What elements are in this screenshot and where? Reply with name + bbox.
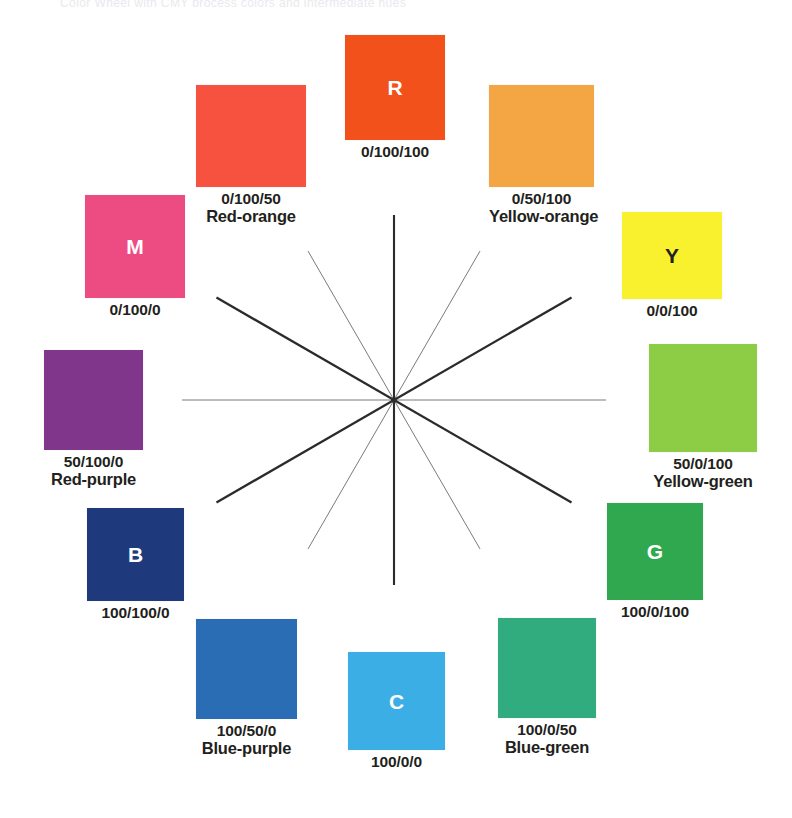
color-name-blue-green: Blue-green [498, 738, 596, 756]
swatch-group-yellow: Y 0/0/100 [622, 212, 722, 319]
color-chip-green[interactable]: G [607, 503, 703, 600]
color-chip-red-purple[interactable] [44, 350, 143, 450]
swatch-group-blue-purple: 100/50/0 Blue-purple [196, 619, 297, 758]
chip-letter-magenta: M [126, 236, 144, 257]
chip-letter-red: R [387, 77, 402, 98]
swatch-group-green: G 100/0/100 [607, 503, 703, 620]
color-name-blue-purple: Blue-purple [196, 739, 297, 757]
swatch-group-yellow-green: 50/0/100 Yellow-green [649, 344, 757, 491]
color-code-red-orange: 0/100/50 [196, 190, 306, 207]
color-name-red-orange: Red-orange [196, 207, 306, 225]
swatch-group-yellow-orange: 0/50/100 Yellow-orange [489, 85, 594, 226]
chip-letter-green: G [647, 541, 663, 562]
spoke-line-4 [308, 251, 480, 549]
color-code-yellow-green: 50/0/100 [649, 455, 757, 472]
swatch-group-blue-green: 100/0/50 Blue-green [498, 618, 596, 757]
swatch-group-red: R 0/100/100 [345, 35, 445, 160]
spoke-line-3 [216, 298, 571, 503]
color-wheel-figure: Color Wheel with CMY process colors and … [0, 0, 792, 818]
color-chip-blue-purple[interactable] [196, 619, 297, 719]
color-code-blue-purple: 100/50/0 [196, 722, 297, 739]
color-code-yellow: 0/0/100 [622, 302, 722, 319]
color-chip-red[interactable]: R [345, 35, 445, 140]
color-chip-magenta[interactable]: M [85, 195, 185, 298]
swatch-group-magenta: M 0/100/0 [85, 195, 185, 318]
color-code-blue: 100/100/0 [87, 604, 184, 621]
color-code-blue-green: 100/0/50 [498, 721, 596, 738]
swatch-group-cyan: C 100/0/0 [348, 652, 445, 770]
swatch-group-red-orange: 0/100/50 Red-orange [196, 85, 306, 226]
color-code-red-purple: 50/100/0 [44, 453, 143, 470]
chip-letter-cyan: C [389, 691, 404, 712]
color-chip-blue[interactable]: B [87, 508, 184, 601]
chip-letter-yellow: Y [665, 245, 679, 266]
color-code-cyan: 100/0/0 [348, 753, 445, 770]
color-name-yellow-orange: Yellow-orange [489, 207, 594, 225]
color-chip-cyan[interactable]: C [348, 652, 445, 750]
color-code-red: 0/100/100 [345, 143, 445, 160]
spoke-lines [182, 215, 606, 585]
color-chip-blue-green[interactable] [498, 618, 596, 718]
color-chip-yellow[interactable]: Y [622, 212, 722, 299]
color-chip-red-orange[interactable] [196, 85, 306, 187]
color-name-yellow-green: Yellow-green [649, 472, 757, 490]
color-chip-yellow-orange[interactable] [489, 85, 594, 187]
cropped-caption-sliver: Color Wheel with CMY process colors and … [60, 0, 700, 7]
spoke-hub [391, 397, 396, 402]
spoke-line-2 [216, 298, 571, 503]
swatch-group-red-purple: 50/100/0 Red-purple [44, 350, 143, 489]
color-code-magenta: 0/100/0 [85, 301, 185, 318]
spoke-line-5 [308, 251, 480, 549]
color-name-red-purple: Red-purple [44, 470, 143, 488]
color-code-yellow-orange: 0/50/100 [489, 190, 594, 207]
color-chip-yellow-green[interactable] [649, 344, 757, 452]
color-code-green: 100/0/100 [607, 603, 703, 620]
swatch-group-blue: B 100/100/0 [87, 508, 184, 621]
chip-letter-blue: B [128, 544, 143, 565]
